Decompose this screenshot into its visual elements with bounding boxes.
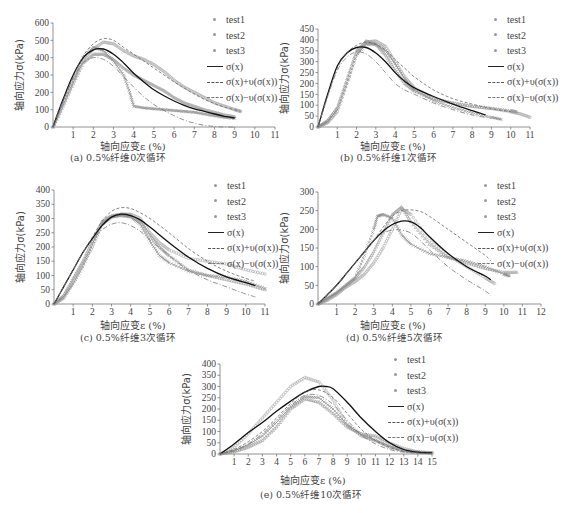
line-swatch-icon [388, 417, 406, 427]
svg-text:2: 2 [246, 457, 251, 467]
legend-item: test1 [388, 352, 458, 368]
svg-text:5: 5 [288, 457, 293, 467]
legend-item: test2 [388, 368, 458, 384]
svg-text:9: 9 [345, 457, 350, 467]
svg-text:8: 8 [331, 457, 336, 467]
svg-text:4: 4 [274, 457, 279, 467]
svg-text:50: 50 [207, 438, 217, 448]
chart-caption: (e) 0.5%纤维10次循环 [260, 487, 362, 501]
x-axis-label: 轴向应变ε (%) [280, 472, 346, 487]
legend-item: σ(x)−υ(σ(x)) [388, 430, 458, 446]
marker-icon [388, 386, 406, 396]
svg-text:1: 1 [232, 457, 237, 467]
svg-text:11: 11 [371, 457, 380, 467]
svg-text:0: 0 [211, 449, 216, 459]
legend-label: σ(x)+υ(σ(x)) [407, 414, 458, 430]
legend-label: test3 [407, 383, 426, 399]
svg-text:12: 12 [385, 457, 395, 467]
svg-text:6: 6 [302, 457, 307, 467]
legend-label: σ(x) [407, 399, 424, 415]
svg-text:3: 3 [260, 457, 265, 467]
svg-text:100: 100 [202, 427, 217, 437]
legend-label: test2 [407, 368, 426, 384]
svg-text:300: 300 [202, 382, 217, 392]
svg-text:13: 13 [399, 457, 409, 467]
marker-icon [388, 370, 406, 380]
svg-text:350: 350 [202, 370, 217, 380]
svg-text:轴向应力σ(kPa): 轴向应力σ(kPa) [180, 373, 192, 445]
svg-text:150: 150 [202, 415, 217, 425]
legend-item: test3 [388, 383, 458, 399]
marker-icon [388, 355, 406, 365]
legend-item: σ(x)+υ(σ(x)) [388, 414, 458, 430]
svg-text:400: 400 [202, 359, 217, 369]
svg-text:7: 7 [317, 457, 322, 467]
chart-legend-e: test1test2test3σ(x)σ(x)+υ(σ(x))σ(x)−υ(σ(… [388, 352, 458, 445]
svg-text:15: 15 [427, 457, 437, 467]
svg-text:200: 200 [202, 404, 217, 414]
chart-panel-e: 0501001502002503003504001234567891011121… [0, 0, 565, 513]
line-swatch-icon [388, 432, 406, 442]
svg-text:250: 250 [202, 393, 217, 403]
legend-item: σ(x) [388, 399, 458, 415]
chart-plot-e: 0501001502002503003504001234567891011121… [0, 0, 565, 513]
svg-text:10: 10 [357, 457, 367, 467]
legend-label: σ(x)−υ(σ(x)) [407, 430, 458, 446]
legend-label: test1 [407, 352, 426, 368]
svg-text:14: 14 [413, 457, 423, 467]
line-swatch-icon [388, 401, 406, 411]
